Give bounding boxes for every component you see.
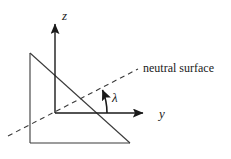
neutral-surface-line [8, 69, 138, 136]
angle-arc-arrow [103, 90, 108, 113]
z-axis-label: z [61, 8, 67, 23]
figure-canvas: z y λ neutral surface [0, 0, 231, 159]
y-axis-label: y [157, 106, 165, 121]
diagram-svg: z y λ neutral surface [0, 0, 231, 159]
neutral-surface-label: neutral surface [143, 61, 214, 75]
angle-lambda-label: λ [111, 90, 118, 105]
